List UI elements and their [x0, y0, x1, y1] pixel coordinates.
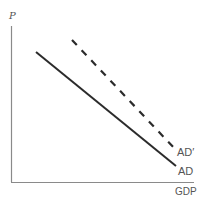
ad-label: AD	[178, 166, 193, 177]
ad-prime-label: AD′	[177, 147, 194, 158]
diagram-canvas	[0, 0, 208, 204]
y-axis-label: P	[9, 11, 16, 21]
ad-curve	[36, 52, 176, 166]
x-axis-label: GDP	[175, 187, 197, 197]
